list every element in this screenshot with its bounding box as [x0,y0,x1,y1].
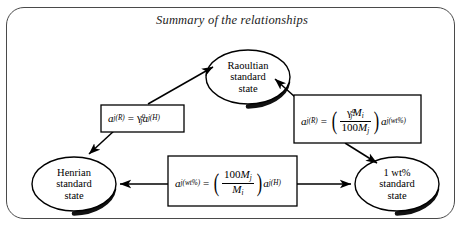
f-bottom-lhs-sub: j(wt%) [181,179,201,187]
f-right-den-100: 100 [342,121,359,133]
f-right-num-M-sub: i [362,112,364,120]
formula-left-text: aj(R) = γoj aj(H) [108,111,160,125]
f-bottom-paren-open: ( [214,173,219,193]
f-right-fraction: γojMi 100Mj [340,107,372,136]
f-bottom-den-M-sub: i [241,189,243,197]
f-left-equals: = [128,112,134,124]
f-right-rhs-sub: j(wt%) [386,117,406,125]
f-right-den-M: M [358,121,367,133]
f-left-gamma-sup: o [142,112,146,120]
f-bottom-paren-close: ) [256,173,261,193]
formula-right-text: aj(R) = ( γojMi 100Mj ) aj(wt%) [301,107,406,136]
f-left-rhs-sub: j(H) [148,114,160,122]
f-bottom-den-M: M [232,183,241,195]
f-right-paren-open: ( [332,111,337,131]
f-right-den-M-sub: j [367,127,369,135]
f-bottom-num-M: M [240,168,249,180]
f-bottom-num-M-sub: j [250,174,252,182]
arrow-left-formula-to-raoultian [148,67,213,104]
f-bottom-num-100: 100 [224,168,241,180]
f-right-num-M: M [353,106,362,118]
raoultian-label: Raoultian standard state [206,60,290,94]
formula-bottom-text: aj(wt%) = ( 100Mj Mi ) aj(H) [175,169,281,198]
arrow-right-formula-to-wt1 [345,143,377,163]
f-right-paren-close: ) [374,111,379,131]
figure-root: Summary of the relationships [0,0,464,229]
f-right-equals: = [321,115,327,127]
henrian-label: Henrian standard state [32,167,116,201]
wt1-label: 1 wt% standard state [355,167,439,201]
f-bottom-rhs-sub: j(H) [269,179,281,187]
f-left-lhs-sub: j(R) [114,114,125,122]
f-bottom-equals: = [203,177,209,189]
f-right-lhs-sub: j(R) [307,117,318,125]
f-bottom-fraction: 100Mj Mi [222,169,254,198]
arrow-left-formula-to-henrian [89,130,115,154]
